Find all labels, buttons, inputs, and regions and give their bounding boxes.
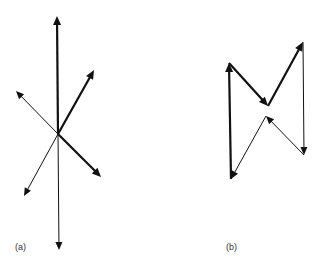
panel-a-down-left-arrowhead-icon — [24, 187, 31, 196]
panel-b-down-left-arrowhead-icon — [231, 170, 238, 179]
panel-a-down-right-vector-line — [58, 134, 95, 171]
panel-a-down-vector-line — [58, 134, 59, 243]
panel-a-down-left-vector-line — [27, 134, 58, 190]
panel-b-down-arrowhead-icon — [300, 147, 307, 155]
panel-b-up-right-vector-line — [268, 49, 299, 106]
panel-a-label: (a) — [15, 242, 26, 252]
panel-a-up-right-vector-line — [58, 77, 90, 134]
panel-a-up-arrowhead-icon — [53, 16, 61, 25]
panel-b-label: (b) — [226, 242, 237, 252]
panel-a-down-arrowhead-icon — [55, 242, 62, 250]
panel-b-up-vector-line — [229, 71, 231, 179]
panel-a-up-vector-line — [57, 24, 58, 134]
panel-b-polygon-vectors — [225, 42, 307, 179]
panel-b-down-left-vector-line — [234, 116, 266, 173]
panel-a-up-left-vector-line — [21, 96, 58, 134]
vector-diagram — [0, 0, 322, 261]
panel-b-down-right-vector-line — [229, 63, 263, 100]
panel-a-radiating-vectors — [16, 16, 101, 250]
panel-b-up-left-vector-line — [271, 121, 304, 155]
panel-b-down-vector-line — [303, 42, 304, 148]
